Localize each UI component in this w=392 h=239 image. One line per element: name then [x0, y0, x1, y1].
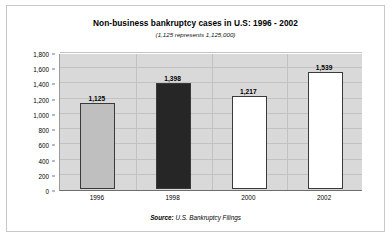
plot-area — [59, 54, 362, 191]
source-label: Source: — [150, 214, 173, 221]
y-axis-tick-mark — [52, 54, 55, 55]
chart-title: Non-business bankruptcy cases in U.S: 19… — [7, 18, 384, 29]
y-axis-tick-label: 1,000 — [33, 111, 49, 118]
x-axis-tick-label: 2002 — [317, 194, 331, 201]
y-axis-tick-mark — [52, 175, 55, 176]
bar — [156, 83, 191, 189]
y-axis-tick-mark — [52, 160, 55, 161]
bar-value-label: 1,125 — [89, 95, 106, 102]
x-axis-tick-label: 1998 — [166, 194, 180, 201]
plot-wrap: 1,1251,3981,2171,539 — [59, 54, 362, 191]
bar-value-label: 1,398 — [164, 75, 181, 82]
y-axis-tick-label: 1,800 — [33, 51, 49, 58]
chart-subtitle: (1,125 represents 1,125,000) — [7, 30, 384, 40]
title-block: Non-business bankruptcy cases in U.S: 19… — [7, 18, 384, 40]
y-axis-tick-mark — [52, 84, 55, 85]
y-axis-tick-mark — [52, 114, 55, 115]
category-separator — [136, 54, 137, 190]
y-axis-tick-mark — [52, 145, 55, 146]
y-axis-tick-label: 800 — [38, 127, 49, 134]
y-axis-tick-label: 1,400 — [33, 81, 49, 88]
y-axis-tick-mark — [52, 69, 55, 70]
y-axis-tick-mark — [52, 99, 55, 100]
x-axis-tick-label: 1996 — [90, 194, 104, 201]
source-text: U.S. Bankruptcy Filings — [175, 214, 240, 221]
y-axis-tick-label: 0 — [45, 188, 49, 195]
y-axis-tick-label: 600 — [38, 142, 49, 149]
gridline — [60, 52, 362, 53]
x-axis-tick-label: 2000 — [241, 194, 255, 201]
category-separator — [212, 54, 213, 190]
bar-value-label: 1,539 — [316, 64, 333, 71]
y-axis-tick-label: 200 — [38, 172, 49, 179]
x-axis: 1996199820002002 — [59, 194, 362, 208]
bar-value-label: 1,217 — [240, 88, 257, 95]
y-axis-tick-mark — [52, 191, 55, 192]
y-axis-tick-label: 1,600 — [33, 66, 49, 73]
y-axis-tick-mark — [52, 130, 55, 131]
bar — [232, 96, 267, 189]
category-separator — [287, 54, 288, 190]
source-note: Source: U.S. Bankruptcy Filings — [7, 214, 384, 221]
chart-frame: Non-business bankruptcy cases in U.S: 19… — [6, 5, 385, 232]
bar — [308, 72, 343, 189]
bar — [80, 103, 115, 189]
y-axis-tick-label: 1,200 — [33, 96, 49, 103]
y-axis-tick-label: 400 — [38, 157, 49, 164]
y-axis: 02004006008001,0001,2001,4001,6001,800 — [7, 50, 55, 191]
